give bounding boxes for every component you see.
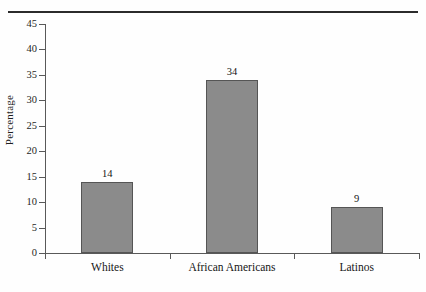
y-axis-tick-label-wrap: 45	[0, 19, 37, 29]
y-axis-tick	[39, 202, 45, 203]
y-axis-tick-label-wrap: 30	[0, 95, 37, 105]
bar-value-label: 34	[202, 66, 262, 77]
bar	[81, 182, 133, 253]
y-axis-tick	[39, 177, 45, 178]
y-axis-tick-label-wrap: 20	[0, 146, 37, 156]
y-axis-tick-label: 40	[3, 44, 37, 54]
y-axis-tick-label: 10	[3, 197, 37, 207]
y-axis-tick-label: 45	[3, 19, 37, 29]
bar-value-label: 9	[327, 193, 387, 204]
y-axis-tick	[39, 100, 45, 101]
y-axis-tick-label-wrap: 25	[0, 121, 37, 131]
chart-page: Percentage 051015202530354045 14Whites34…	[0, 0, 426, 292]
x-axis-line	[45, 253, 419, 254]
y-axis-tick	[39, 126, 45, 127]
x-axis-tick	[294, 253, 295, 259]
x-axis-tick	[170, 253, 171, 259]
bar-value-label: 14	[77, 168, 137, 179]
y-axis-tick	[39, 24, 45, 25]
y-axis-tick	[39, 151, 45, 152]
y-axis-tick-label: 20	[3, 146, 37, 156]
y-axis-tick	[39, 49, 45, 50]
y-axis-tick-label: 25	[3, 121, 37, 131]
y-axis-tick	[39, 228, 45, 229]
y-axis-tick-label-wrap: 5	[0, 223, 37, 233]
y-axis-tick-label: 0	[3, 248, 37, 258]
y-axis-tick-label-wrap: 35	[0, 70, 37, 80]
y-axis-tick-label: 35	[3, 70, 37, 80]
y-axis-tick-label-wrap: 40	[0, 44, 37, 54]
y-axis-tick-label: 15	[3, 172, 37, 182]
bar	[206, 80, 258, 253]
x-axis-category-label: Latinos	[294, 261, 419, 274]
y-axis-tick-label-wrap: 0	[0, 248, 37, 258]
x-axis-category-label: African Americans	[170, 261, 295, 274]
x-axis-category-label: Whites	[45, 261, 170, 274]
y-axis-tick	[39, 75, 45, 76]
bar	[331, 207, 383, 253]
bar-chart-plot: Percentage 051015202530354045 14Whites34…	[0, 0, 426, 292]
y-axis-tick-label-wrap: 15	[0, 172, 37, 182]
x-axis-tick	[45, 253, 46, 259]
y-axis-tick-label-wrap: 10	[0, 197, 37, 207]
y-axis-line	[45, 24, 46, 254]
x-axis-tick	[419, 253, 420, 259]
y-axis-tick-label: 30	[3, 95, 37, 105]
y-axis-tick-label: 5	[3, 223, 37, 233]
